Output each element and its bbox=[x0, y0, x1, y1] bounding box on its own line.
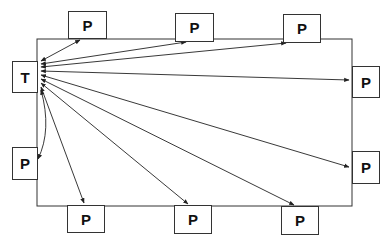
participant-box-top-3: P bbox=[283, 14, 321, 43]
participant-box-right-1: P bbox=[352, 66, 380, 98]
table-rect bbox=[37, 39, 352, 206]
participant-box-left-1: P bbox=[12, 147, 38, 180]
participant-box-right-2: P bbox=[352, 151, 380, 184]
participant-box-bottom-3: P bbox=[281, 206, 319, 235]
participant-box-bottom-2: P bbox=[174, 205, 212, 234]
participant-box-top-1: P bbox=[68, 11, 107, 39]
participant-box-top-2: P bbox=[175, 13, 214, 42]
participant-box-bottom-1: P bbox=[67, 205, 105, 233]
teacher-box: T bbox=[12, 61, 38, 93]
arrows bbox=[38, 40, 349, 205]
